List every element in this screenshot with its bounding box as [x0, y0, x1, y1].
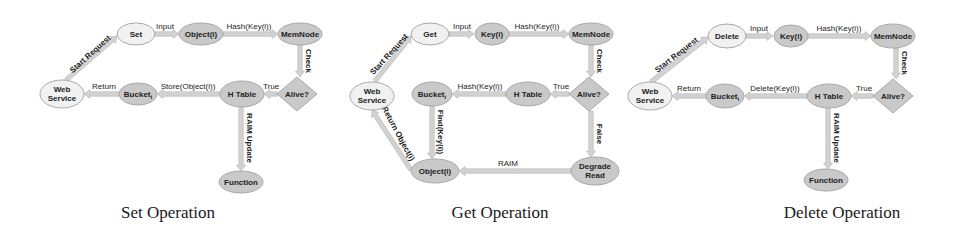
- edge-store-object-i: Store(Object(i)): [157, 82, 220, 99]
- node-alive: Alive?: [277, 77, 317, 111]
- edge-label: Return: [92, 82, 116, 91]
- node-mem: MemNode: [871, 24, 915, 48]
- node-key: Key(i): [475, 23, 509, 45]
- diagram-canvas: Start RequestInputHash(Key(i))CheckTrueS…: [0, 0, 963, 235]
- node-op: Get: [411, 23, 449, 45]
- node-label: Alive?: [577, 90, 601, 99]
- node-label: Key(i): [481, 30, 504, 39]
- node-label: Function: [224, 178, 258, 187]
- node-label: Bucketi: [711, 92, 740, 102]
- edge-raim: RAIM: [459, 159, 571, 176]
- node-label: Get: [423, 30, 437, 39]
- edge-start-request: Start Request: [650, 35, 708, 83]
- edge-label: True: [553, 82, 570, 91]
- node-bucket: Bucketi: [706, 84, 744, 108]
- edge-label: Input: [750, 24, 769, 33]
- edge-hash-key-i: Hash(Key(i)): [808, 24, 871, 41]
- node-label: MemNode: [874, 32, 913, 41]
- node-htable: H Table: [220, 81, 264, 107]
- edge-input: Input: [155, 22, 179, 39]
- node-label: MemNode: [572, 30, 611, 39]
- edge-raim-update: RAIM Update: [824, 108, 842, 169]
- edge-true: True: [263, 82, 280, 99]
- edge-label: Input: [156, 22, 175, 31]
- delete-operation-diagram: Start RequestInputHash(Key(i))CheckTrueD…: [628, 24, 915, 191]
- node-label: Function: [809, 176, 843, 185]
- node-label: Alive?: [285, 90, 309, 99]
- node-mem: MemNode: [278, 23, 322, 45]
- get-operation-diagram: Start RequestInputHash(Key(i))CheckTrueH…: [350, 22, 619, 185]
- node-label: Delete: [715, 32, 740, 41]
- edge-label: False: [595, 124, 604, 145]
- node-op: Set: [117, 23, 155, 45]
- edge-label: Hash(Key(i)): [515, 22, 560, 31]
- edge-check: Check: [892, 48, 910, 79]
- node-degrade: DegradeRead: [571, 157, 619, 185]
- node-func: Function: [804, 169, 848, 191]
- edge-label: RAIM Update: [832, 113, 841, 163]
- edge-label: Start Request: [368, 32, 410, 77]
- edge-raim-update: RAIM Update: [237, 107, 255, 171]
- edge-input: Input: [449, 22, 474, 39]
- node-web: WebService: [628, 82, 672, 110]
- edge-label: Hash(Key(i)): [817, 24, 862, 33]
- node-alive: Alive?: [569, 77, 609, 111]
- edge-label: Start Request: [68, 33, 113, 75]
- edge-false: False: [587, 111, 605, 157]
- edge-hash-key-i: Hash(Key(i)): [509, 22, 569, 39]
- edge-return: Return: [672, 84, 706, 101]
- node-obj: Object(i): [411, 159, 459, 183]
- node-label: Object(i): [185, 30, 218, 39]
- edge-start-request: Start Request: [65, 33, 117, 82]
- node-op: Delete: [708, 24, 746, 48]
- node-web: WebService: [40, 80, 84, 108]
- edge-return-object-i: Return Object(i): [372, 105, 417, 171]
- node-alive: Alive?: [873, 79, 913, 113]
- node-web: WebService: [350, 82, 394, 110]
- node-label: H Table: [228, 90, 257, 99]
- edge-label: Hash(Key(i)): [458, 82, 503, 91]
- edge-label: True: [263, 82, 280, 91]
- edge-label: True: [856, 84, 873, 93]
- edge-label: Check: [595, 49, 604, 74]
- node-bucket: Bucketi: [119, 83, 157, 105]
- node-bucket: Bucketi: [412, 82, 452, 106]
- edge-find-key-i: Find(Key(i)): [428, 106, 446, 159]
- edge-hash-key-i: Hash(Key(i)): [223, 22, 278, 39]
- arrow-icon: [587, 111, 596, 157]
- set-operation-diagram: Start RequestInputHash(Key(i))CheckTrueS…: [40, 22, 322, 193]
- node-func: Function: [219, 171, 263, 193]
- edge-label: Check: [900, 51, 909, 76]
- edge-label: Input: [453, 22, 472, 31]
- edge-label: RAIM Update: [245, 113, 254, 163]
- arrow-icon: [428, 106, 437, 159]
- edge-label: Start Request: [653, 35, 700, 74]
- node-label: Object(i): [419, 167, 452, 176]
- arrow-icon: [237, 107, 246, 171]
- edge-check: Check: [587, 45, 605, 77]
- edge-label: Check: [304, 49, 313, 74]
- node-mem: MemNode: [569, 23, 613, 45]
- arrow-icon: [296, 45, 305, 77]
- arrow-icon: [650, 37, 708, 84]
- edge-true: True: [851, 84, 873, 101]
- node-label: Alive?: [881, 92, 905, 101]
- caption-delete-operation: Delete Operation: [752, 203, 932, 223]
- edge-label: Delete(Key(i)): [750, 84, 800, 93]
- edge-delete-key-i: Delete(Key(i)): [744, 84, 807, 101]
- edge-hash-key-i: Hash(Key(i)): [452, 82, 506, 99]
- node-key: Key(i): [774, 25, 808, 47]
- node-label: Set: [130, 30, 143, 39]
- node-htable: H Table: [807, 84, 851, 108]
- edge-label: Store(Object(i)): [161, 82, 216, 91]
- edge-true: True: [550, 82, 570, 99]
- node-label: H Table: [815, 92, 844, 101]
- edge-label: Return: [677, 84, 701, 93]
- edge-label: RAIM: [498, 159, 518, 168]
- node-label: H Table: [514, 90, 543, 99]
- edge-input: Input: [746, 24, 773, 41]
- edge-return: Return: [84, 82, 119, 99]
- caption-get-operation: Get Operation: [410, 203, 590, 223]
- node-htable: H Table: [506, 82, 550, 106]
- edge-start-request: Start Request: [368, 32, 411, 83]
